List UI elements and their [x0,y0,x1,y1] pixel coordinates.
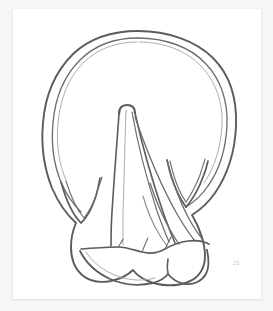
heel-bulb-inner-contour [86,252,155,280]
sole-radiating-line-2 [150,183,179,244]
hoof-wall-inner-outline [138,38,227,207]
sole-edge-joint-mid [142,238,148,252]
sole-lower-edge [81,241,209,253]
scan-page: 25 [0,0,273,311]
plate-number: 25 [233,259,239,267]
heel-cleft [167,259,168,274]
sole-radiating-line-1 [135,117,195,241]
frog-left-edge [111,114,119,246]
central-sulcus [123,110,126,245]
frog-right-edge-inner [132,112,169,242]
hoof-wall-inner-outline-trace-left [57,42,137,180]
left-collateral-groove-inner [66,177,102,218]
right-collateral-groove [186,161,208,207]
sole-edge-joint-left [118,239,123,247]
